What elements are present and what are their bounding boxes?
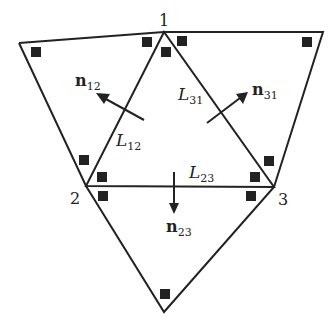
vertex-label-1: 1: [159, 11, 169, 30]
arrow-n12: [104, 98, 144, 120]
central-triangle: [86, 32, 274, 187]
triangle-mesh-diagram: 1 2 3 L12 L23 L31 n12 n23 n31: [0, 0, 331, 326]
outer-boundary: [19, 32, 323, 312]
vertex-label-3: 3: [278, 190, 288, 209]
edge-label-L12: L12: [115, 130, 141, 153]
normal-arrows: [96, 92, 248, 214]
normal-label-n23: n23: [166, 217, 192, 239]
arrow-n31: [207, 98, 240, 123]
normal-label-n31: n31: [252, 80, 278, 102]
node-markers: [31, 36, 312, 299]
edge-label-L31: L31: [177, 84, 203, 107]
normal-label-n12: n12: [75, 71, 101, 93]
edge-label-L23: L23: [188, 162, 214, 185]
vertex-label-2: 2: [70, 189, 80, 208]
mesh-edges: [19, 32, 323, 312]
